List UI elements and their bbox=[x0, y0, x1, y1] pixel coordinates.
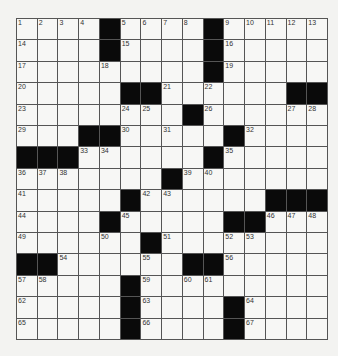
grid-cell[interactable] bbox=[204, 319, 224, 339]
grid-cell[interactable] bbox=[58, 233, 78, 253]
grid-cell[interactable] bbox=[141, 147, 161, 167]
grid-cell[interactable]: 17 bbox=[17, 62, 37, 82]
grid-cell[interactable] bbox=[245, 169, 265, 189]
grid-cell[interactable]: 63 bbox=[141, 297, 161, 317]
grid-cell[interactable]: 41 bbox=[17, 190, 37, 210]
grid-cell[interactable] bbox=[79, 169, 99, 189]
grid-cell[interactable] bbox=[307, 319, 327, 339]
grid-cell[interactable]: 10 bbox=[245, 19, 265, 39]
grid-cell[interactable]: 19 bbox=[224, 62, 244, 82]
grid-cell[interactable] bbox=[79, 83, 99, 103]
grid-cell[interactable] bbox=[224, 83, 244, 103]
grid-cell[interactable]: 30 bbox=[121, 126, 141, 146]
grid-cell[interactable] bbox=[266, 126, 286, 146]
grid-cell[interactable]: 26 bbox=[204, 105, 224, 125]
grid-cell[interactable] bbox=[141, 62, 161, 82]
grid-cell[interactable] bbox=[58, 40, 78, 60]
grid-cell[interactable]: 65 bbox=[17, 319, 37, 339]
grid-cell[interactable]: 59 bbox=[141, 276, 161, 296]
grid-cell[interactable]: 36 bbox=[17, 169, 37, 189]
grid-cell[interactable] bbox=[245, 276, 265, 296]
grid-cell[interactable]: 35 bbox=[224, 147, 244, 167]
grid-cell[interactable] bbox=[245, 40, 265, 60]
grid-cell[interactable] bbox=[307, 254, 327, 274]
grid-cell[interactable] bbox=[287, 297, 307, 317]
grid-cell[interactable]: 62 bbox=[17, 297, 37, 317]
grid-cell[interactable] bbox=[100, 297, 120, 317]
grid-cell[interactable] bbox=[58, 276, 78, 296]
grid-cell[interactable] bbox=[162, 212, 182, 232]
grid-cell[interactable]: 51 bbox=[162, 233, 182, 253]
grid-cell[interactable] bbox=[266, 105, 286, 125]
grid-cell[interactable]: 27 bbox=[287, 105, 307, 125]
grid-cell[interactable]: 8 bbox=[183, 19, 203, 39]
grid-cell[interactable] bbox=[307, 126, 327, 146]
grid-cell[interactable] bbox=[307, 233, 327, 253]
grid-cell[interactable]: 11 bbox=[266, 19, 286, 39]
grid-cell[interactable] bbox=[141, 40, 161, 60]
grid-cell[interactable] bbox=[287, 254, 307, 274]
grid-cell[interactable] bbox=[162, 62, 182, 82]
grid-cell[interactable] bbox=[79, 40, 99, 60]
grid-cell[interactable] bbox=[100, 254, 120, 274]
grid-cell[interactable] bbox=[58, 62, 78, 82]
grid-cell[interactable]: 38 bbox=[58, 169, 78, 189]
grid-cell[interactable] bbox=[183, 212, 203, 232]
grid-cell[interactable] bbox=[58, 83, 78, 103]
grid-cell[interactable] bbox=[79, 190, 99, 210]
grid-cell[interactable] bbox=[245, 62, 265, 82]
grid-cell[interactable]: 50 bbox=[100, 233, 120, 253]
grid-cell[interactable]: 53 bbox=[245, 233, 265, 253]
grid-cell[interactable]: 67 bbox=[245, 319, 265, 339]
grid-cell[interactable] bbox=[162, 276, 182, 296]
grid-cell[interactable]: 12 bbox=[287, 19, 307, 39]
grid-cell[interactable] bbox=[183, 83, 203, 103]
grid-cell[interactable] bbox=[58, 126, 78, 146]
grid-cell[interactable] bbox=[287, 319, 307, 339]
grid-cell[interactable] bbox=[183, 319, 203, 339]
grid-cell[interactable]: 21 bbox=[162, 83, 182, 103]
grid-cell[interactable] bbox=[183, 126, 203, 146]
grid-cell[interactable]: 40 bbox=[204, 169, 224, 189]
grid-cell[interactable] bbox=[100, 83, 120, 103]
grid-cell[interactable] bbox=[38, 83, 58, 103]
grid-cell[interactable] bbox=[307, 169, 327, 189]
grid-cell[interactable] bbox=[100, 169, 120, 189]
grid-cell[interactable]: 2 bbox=[38, 19, 58, 39]
grid-cell[interactable]: 58 bbox=[38, 276, 58, 296]
grid-cell[interactable] bbox=[204, 212, 224, 232]
grid-cell[interactable] bbox=[79, 297, 99, 317]
grid-cell[interactable] bbox=[38, 40, 58, 60]
grid-cell[interactable] bbox=[162, 40, 182, 60]
grid-cell[interactable] bbox=[141, 126, 161, 146]
grid-cell[interactable]: 1 bbox=[17, 19, 37, 39]
grid-cell[interactable] bbox=[224, 105, 244, 125]
grid-cell[interactable]: 33 bbox=[79, 147, 99, 167]
grid-cell[interactable] bbox=[307, 147, 327, 167]
grid-cell[interactable] bbox=[162, 319, 182, 339]
grid-cell[interactable] bbox=[121, 147, 141, 167]
grid-cell[interactable]: 3 bbox=[58, 19, 78, 39]
grid-cell[interactable]: 52 bbox=[224, 233, 244, 253]
grid-cell[interactable] bbox=[58, 105, 78, 125]
grid-cell[interactable]: 16 bbox=[224, 40, 244, 60]
grid-cell[interactable]: 9 bbox=[224, 19, 244, 39]
grid-cell[interactable] bbox=[266, 62, 286, 82]
grid-cell[interactable] bbox=[162, 105, 182, 125]
grid-cell[interactable] bbox=[245, 190, 265, 210]
grid-cell[interactable] bbox=[287, 233, 307, 253]
grid-cell[interactable] bbox=[121, 254, 141, 274]
grid-cell[interactable] bbox=[121, 233, 141, 253]
grid-cell[interactable] bbox=[266, 319, 286, 339]
grid-cell[interactable] bbox=[141, 212, 161, 232]
grid-cell[interactable]: 44 bbox=[17, 212, 37, 232]
grid-cell[interactable] bbox=[79, 105, 99, 125]
grid-cell[interactable] bbox=[245, 254, 265, 274]
grid-cell[interactable] bbox=[38, 190, 58, 210]
grid-cell[interactable] bbox=[100, 105, 120, 125]
grid-cell[interactable]: 45 bbox=[121, 212, 141, 232]
grid-cell[interactable] bbox=[58, 190, 78, 210]
grid-cell[interactable]: 47 bbox=[287, 212, 307, 232]
grid-cell[interactable] bbox=[266, 233, 286, 253]
grid-cell[interactable]: 48 bbox=[307, 212, 327, 232]
